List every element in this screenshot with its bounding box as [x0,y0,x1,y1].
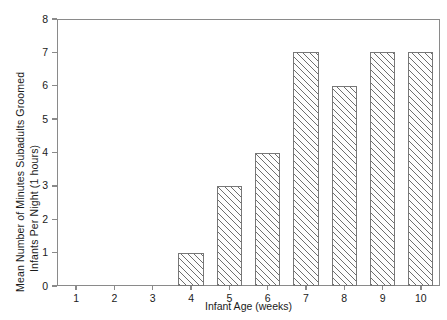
y-tick-label: 1 [42,245,48,260]
y-tick-label: 3 [42,178,48,193]
y-tick-label: 2 [42,212,48,227]
x-tick-mark [190,286,191,290]
x-axis-title: Infant Age (weeks) [57,300,440,312]
y-tick-label: 5 [42,112,48,127]
x-tick-mark [75,286,76,290]
bar [408,52,433,286]
y-tick-mark [52,85,57,86]
y-tick-label: 4 [42,145,48,160]
y-tick-mark [52,152,57,153]
y-tick-mark [52,252,57,253]
x-tick-mark [344,286,345,290]
y-axis-title-line-1: Mean Number of Minutes Subadults Groomed [14,72,26,292]
y-tick-mark [52,52,57,53]
y-tick-label: 7 [42,45,48,60]
y-tick-label: 0 [42,279,48,294]
y-tick-mark [52,285,57,286]
bar [332,86,357,286]
bar-chart: Mean Number of Minutes Subadults Groomed… [0,0,447,320]
x-tick-mark [267,286,268,290]
y-tick-label: 8 [42,12,48,27]
y-tick-mark [52,185,57,186]
bar [217,186,242,286]
bar [370,52,395,286]
x-tick-mark [420,286,421,290]
bar [178,253,203,286]
y-tick-mark [52,118,57,119]
x-tick-mark [114,286,115,290]
x-tick-mark [152,286,153,290]
x-tick-mark [229,286,230,290]
y-tick-mark [52,18,57,19]
y-tick-label: 6 [42,78,48,93]
x-tick-mark [305,286,306,290]
x-tick-mark [382,286,383,290]
y-axis-title-line-2: Infants Per Night (1 hours) [28,145,40,272]
bar [293,52,318,286]
bar [255,153,280,287]
y-axis-title: Mean Number of Minutes Subadults Groomed… [0,0,42,300]
y-tick-mark [52,219,57,220]
